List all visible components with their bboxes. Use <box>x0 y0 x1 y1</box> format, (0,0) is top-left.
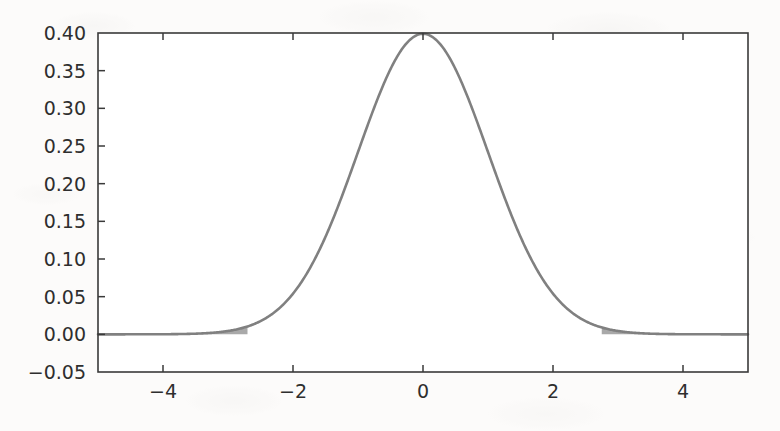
x-axis-tick-label: 4 <box>677 380 689 402</box>
y-axis-tick-label: 0.10 <box>44 248 86 270</box>
y-axis-tick-label: 0.35 <box>44 60 86 82</box>
normal-distribution-chart: −0.050.000.050.100.150.200.250.300.350.4… <box>0 0 780 431</box>
y-axis-tick-label: −0.05 <box>28 361 86 383</box>
y-axis-tick-label: 0.05 <box>44 286 86 308</box>
plot-area-background <box>98 33 748 372</box>
y-axis-tick-label: 0.30 <box>44 97 86 119</box>
y-axis-tick-label: 0.25 <box>44 135 86 157</box>
y-axis-tick-label: 0.00 <box>44 323 86 345</box>
y-axis-tick-label: 0.40 <box>44 22 86 44</box>
x-axis-tick-label: −4 <box>149 380 177 402</box>
x-axis-tick-label: 0 <box>417 380 429 402</box>
y-axis-tick-label: 0.15 <box>44 210 86 232</box>
x-axis-tick-label: −2 <box>279 380 307 402</box>
x-axis-tick-label: 2 <box>547 380 559 402</box>
y-axis-tick-label: 0.20 <box>44 173 86 195</box>
figure-container: −0.050.000.050.100.150.200.250.300.350.4… <box>0 0 780 431</box>
